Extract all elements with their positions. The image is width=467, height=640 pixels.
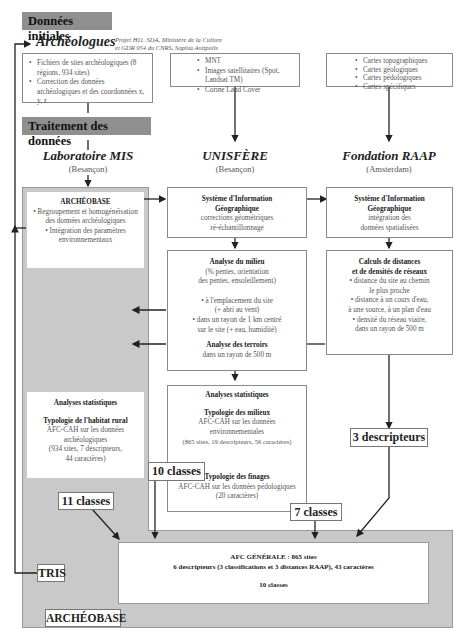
imagery-item: Corine Land Cover bbox=[197, 86, 293, 96]
stats-title: Analyses statistiques bbox=[30, 399, 141, 409]
archeologues-credit: Projet H11. SDA, Ministère de la Culture… bbox=[115, 36, 222, 52]
sig-line: corrections géométriques bbox=[172, 214, 302, 224]
stats-line: AFC-CAH sur les données bbox=[30, 426, 141, 436]
label-10-classes: 10 classes bbox=[148, 462, 205, 481]
analyse-line: des pentes, ensoleillement) bbox=[172, 277, 302, 287]
analyse-line: dans un rayon de 500 m bbox=[172, 351, 302, 361]
lab-name: Laboratoire MIS bbox=[20, 148, 156, 164]
section-header-processing: Traitement des données bbox=[22, 117, 151, 135]
archeologues-item: Correction des données archéologiques et… bbox=[29, 78, 146, 107]
stats-line: (865 sites, 19 descripteurs, 56 caractèr… bbox=[171, 437, 303, 447]
archeologues-box: Fichiers de sites archéologiques (8 régi… bbox=[22, 53, 153, 103]
lab-name: Fondation RAAP bbox=[321, 148, 457, 164]
lab-unisfere: UNISFÈRE (Besançon) bbox=[167, 148, 303, 174]
stats-mid-box: Analyses statistiques Typologie des mili… bbox=[167, 385, 307, 512]
label-3-descripteurs: 3 descripteurs bbox=[350, 428, 428, 447]
archeobase-title: ARCHÉOBASE bbox=[31, 198, 140, 208]
credit-line-2: et GDR 954 du CNRS, Sophia Antipolis bbox=[115, 44, 222, 52]
label-tris: TRIS bbox=[37, 564, 65, 582]
afc-result: 10 classes bbox=[123, 581, 424, 591]
archeobase-box: ARCHÉOBASE • Regroupement et homogénéisa… bbox=[27, 192, 144, 268]
lab-mis: Laboratoire MIS (Besançon) bbox=[20, 148, 156, 174]
stats-line: (934 sites, 7 descripteurs, bbox=[30, 445, 141, 455]
calculs-line: dans un rayon de 500 m bbox=[330, 325, 449, 335]
lab-city: (Besançon) bbox=[167, 164, 303, 174]
lab-city: (Amsterdam) bbox=[321, 164, 457, 174]
stats-line: environnementales bbox=[171, 428, 303, 438]
lab-name: UNISFÈRE bbox=[167, 148, 303, 164]
sig-raap-box: Système d'Information Géographique intég… bbox=[326, 187, 453, 238]
analyse-terroirs-title: Analyse des terroirs bbox=[172, 341, 302, 351]
credit-line-1: Projet H11. SDA, Ministère de la Culture bbox=[115, 36, 222, 44]
analyse-milieu-box: Analyse du milieu (% pentes, orientation… bbox=[167, 250, 307, 371]
stats-line: (20 caractères) bbox=[171, 492, 303, 502]
analyse-line: • dans un rayon de 1 km centré bbox=[172, 316, 302, 326]
stats-line: AFC-CAH sur les données pédologiques bbox=[171, 483, 303, 493]
calculs-line: • distance à un cours d'eau, bbox=[330, 296, 449, 306]
analyse-line: sur le site (+ eau, humidité) bbox=[172, 326, 302, 336]
sig-title: Géographique bbox=[172, 205, 302, 215]
label-11-classes: 11 classes bbox=[58, 492, 114, 510]
calculs-line: • densité du réseau viaire, bbox=[330, 316, 449, 326]
archeologues-item: Fichiers de sites archéologiques (8 régi… bbox=[29, 59, 146, 78]
analyse-line: (+ abri au vent) bbox=[172, 306, 302, 316]
lab-city: (Besançon) bbox=[20, 164, 156, 174]
imagery-item: Images satellitaires (Spot, Landsat TM) bbox=[197, 67, 293, 86]
stats-title: Analyses statistiques bbox=[171, 391, 303, 401]
afc-generale-box: AFC GÉNÉRALE : 865 sites 6 descripteurs … bbox=[118, 542, 429, 604]
calculs-line: à une source, à un plan d'eau bbox=[330, 306, 449, 316]
calculs-line: le plus proche bbox=[330, 287, 449, 297]
sig-line: données spatialisées bbox=[331, 224, 448, 234]
sig-title: Géographique bbox=[331, 205, 448, 215]
stats-line: archéologiques bbox=[30, 436, 141, 446]
sig-line: intégration des bbox=[331, 214, 448, 224]
section-header-initial-data: Données initiales bbox=[22, 12, 112, 30]
maps-item: Cartes géologiques bbox=[355, 66, 446, 75]
calculs-title: et de densités de réseaux bbox=[330, 268, 449, 278]
maps-item: Cartes topographiques bbox=[355, 57, 446, 66]
calculs-line: • distance du site au chemin bbox=[330, 277, 449, 287]
analyse-line: (% pentes, orientation bbox=[172, 268, 302, 278]
stats-left-box: Analyses statistiques Typologie de l'hab… bbox=[27, 392, 144, 478]
maps-item: Cartes spécifiques bbox=[355, 83, 446, 92]
maps-box: Cartes topographiques Cartes géologiques… bbox=[326, 53, 453, 87]
stats-subtitle: Typologie des milieux bbox=[171, 409, 303, 419]
sig-title: Système d'Information bbox=[172, 195, 302, 205]
stats-line: AFC-CAH sur les données bbox=[171, 418, 303, 428]
archeobase-item: • Regroupement et homogénéisation des do… bbox=[31, 208, 140, 227]
stats-subtitle: Typologie de l'habitat rural bbox=[30, 417, 141, 427]
calculs-title: Calculs de distances bbox=[330, 258, 449, 268]
analyse-milieu-title: Analyse du milieu bbox=[172, 258, 302, 268]
afc-title: AFC GÉNÉRALE : 865 sites bbox=[123, 553, 424, 563]
calculs-box: Calculs de distances et de densités de r… bbox=[326, 250, 453, 355]
imagery-box: MNT Images satellitaires (Spot, Landsat … bbox=[170, 53, 300, 87]
imagery-item: MNT bbox=[197, 57, 293, 67]
analyse-line: • à l'emplacement du site bbox=[172, 297, 302, 307]
sig-title: Système d'Information bbox=[331, 195, 448, 205]
label-archeobase: ARCHÉOBASE bbox=[45, 609, 121, 627]
sig-unisfere-box: Système d'Information Géographique corre… bbox=[167, 187, 307, 238]
sig-line: ré-échantillonnage bbox=[172, 224, 302, 234]
archeologues-title: Archéologues bbox=[36, 34, 115, 50]
afc-line: 6 descripteurs (3 classifications et 3 d… bbox=[123, 563, 424, 573]
lab-raap: Fondation RAAP (Amsterdam) bbox=[321, 148, 457, 174]
label-7-classes: 7 classes bbox=[290, 503, 342, 521]
maps-item: Cartes pédologiques bbox=[355, 74, 446, 83]
archeobase-item: • Intégration des paramètres environneme… bbox=[31, 227, 140, 246]
stats-line: 44 caractères) bbox=[30, 455, 141, 465]
